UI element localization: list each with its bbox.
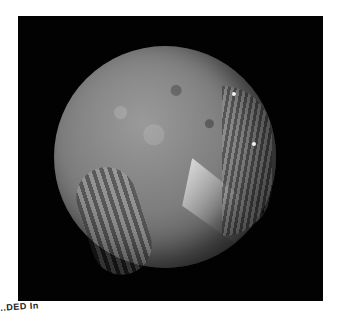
- caption-fragment: ..DED In: [0, 300, 39, 313]
- bright-spot: [232, 92, 236, 96]
- grooved-terrain: [68, 159, 159, 282]
- rim-grooves: [222, 86, 272, 236]
- bright-spot: [252, 142, 256, 146]
- photo-frame: [18, 16, 323, 301]
- moon-image: [54, 46, 276, 268]
